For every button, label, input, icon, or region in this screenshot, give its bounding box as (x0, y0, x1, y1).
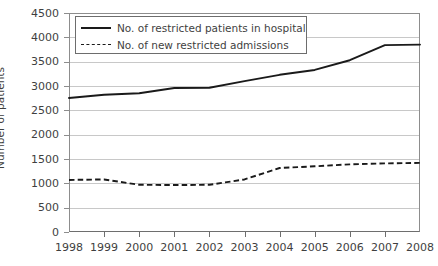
legend-item-restricted-patients-in-hospital: No. of restricted patients in hospital (81, 20, 301, 36)
x-tick-mark (104, 232, 105, 237)
dashed-line-swatch (81, 40, 111, 50)
x-tick-label: 2007 (365, 242, 405, 254)
x-tick-label: 2002 (189, 242, 229, 254)
x-tick-label: 1998 (49, 242, 89, 254)
solid-line-swatch (81, 23, 111, 33)
series-line-new-restricted-admissions (69, 163, 420, 185)
legend-label: No. of restricted patients in hospital (117, 22, 306, 34)
x-tick-label: 2003 (225, 242, 265, 254)
x-tick-label: 2001 (154, 242, 194, 254)
x-tick-label: 2008 (400, 242, 438, 254)
x-tick-mark (174, 232, 175, 237)
y-tick-label: 3500 (31, 56, 59, 67)
x-tick-label: 2004 (260, 242, 300, 254)
x-tick-mark (280, 232, 281, 237)
x-tick-mark (385, 232, 386, 237)
y-tick-label: 500 (38, 202, 59, 213)
legend-item-new-restricted-admissions: No. of new restricted admissions (81, 37, 301, 53)
legend: No. of restricted patients in hospital N… (75, 16, 307, 54)
legend-label: No. of new restricted admissions (117, 39, 289, 51)
x-tick-label: 2005 (295, 242, 335, 254)
x-tick-mark (350, 232, 351, 237)
y-axis-ticks: 050010001500200025003000350040004500 (0, 0, 69, 266)
x-tick-mark (245, 232, 246, 237)
x-tick-label: 1999 (84, 242, 124, 254)
y-tick-label: 4000 (31, 32, 59, 43)
x-tick-mark (315, 232, 316, 237)
y-tick-label: 2000 (31, 129, 59, 140)
x-tick-label: 2000 (119, 242, 159, 254)
y-tick-label: 4500 (31, 8, 59, 19)
x-tick-mark (139, 232, 140, 237)
y-tick-label: 2500 (31, 105, 59, 116)
y-tick-label: 3000 (31, 81, 59, 92)
x-tick-mark (209, 232, 210, 237)
y-tick-label: 1000 (31, 178, 59, 189)
x-axis-ticks: 1998199920002001200220032004200520062007… (0, 232, 427, 266)
x-tick-label: 2006 (330, 242, 370, 254)
y-tick-label: 1500 (31, 154, 59, 165)
